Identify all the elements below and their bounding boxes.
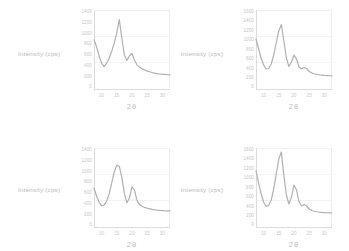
x-axis-title: 2θ — [256, 102, 332, 111]
y-tick: 1600 — [243, 10, 254, 15]
plot-area: 1400 1200 1000 800 600 400 200 0 10 15 2… — [94, 10, 170, 90]
y-tick: 400 — [246, 67, 254, 72]
x-axis-title: 2θ — [256, 240, 332, 249]
y-axis-ticks: 1400 1200 1000 800 600 400 200 0 — [72, 10, 94, 90]
x-tick: 10 — [261, 93, 266, 98]
x-tick: 10 — [99, 231, 104, 236]
y-tick: 800 — [84, 180, 92, 185]
x-tick: 25 — [307, 93, 312, 98]
y-tick: 600 — [84, 191, 92, 196]
y-axis-title: Intensity (cps) — [181, 50, 223, 57]
y-tick: 1200 — [81, 159, 92, 164]
y-tick: 800 — [246, 48, 254, 53]
x-tick: 15 — [114, 93, 119, 98]
xrd-curve — [94, 10, 170, 90]
y-tick: 400 — [246, 205, 254, 210]
xrd-curve — [256, 10, 332, 90]
y-axis-ticks: 1400 1200 1000 800 600 400 200 0 — [72, 148, 94, 228]
y-tick: 1200 — [81, 21, 92, 26]
x-tick: 20 — [291, 93, 296, 98]
y-tick: 1200 — [243, 29, 254, 34]
y-tick: 200 — [246, 214, 254, 219]
y-tick: 1400 — [243, 19, 254, 24]
x-tick: 15 — [276, 93, 281, 98]
x-tick: 10 — [261, 231, 266, 236]
y-tick: 0 — [89, 223, 92, 228]
x-tick: 25 — [145, 93, 150, 98]
chart-panel-top-right: Intensity (cps) 1600 1400 1200 1000 800 … — [175, 0, 349, 126]
x-tick: 30 — [160, 231, 165, 236]
y-tick: 200 — [84, 75, 92, 80]
x-tick: 20 — [129, 93, 134, 98]
x-axis-ticks: 10 15 20 25 30 — [94, 228, 170, 236]
x-axis-title: 2θ — [94, 102, 170, 111]
y-tick: 800 — [246, 186, 254, 191]
x-axis-ticks: 10 15 20 25 30 — [256, 228, 332, 236]
y-tick: 1000 — [243, 176, 254, 181]
y-axis-title: Intensity (cps) — [18, 186, 60, 193]
y-tick: 200 — [246, 76, 254, 81]
y-tick: 1400 — [81, 148, 92, 153]
x-tick: 15 — [114, 231, 119, 236]
x-tick: 30 — [322, 231, 327, 236]
y-tick: 800 — [84, 42, 92, 47]
xrd-curve — [94, 148, 170, 228]
plot-area: 1600 1400 1200 1000 800 600 400 200 0 10… — [256, 10, 332, 90]
y-tick: 600 — [246, 195, 254, 200]
y-tick: 1000 — [243, 38, 254, 43]
chart-panel-bottom-left: Intensity (cps) 1400 1200 1000 800 600 4… — [0, 126, 175, 251]
x-tick: 20 — [291, 231, 296, 236]
y-tick: 400 — [84, 202, 92, 207]
x-tick: 25 — [307, 231, 312, 236]
x-axis-title: 2θ — [94, 240, 170, 249]
y-tick: 1000 — [81, 32, 92, 37]
y-axis-title: Intensity (cps) — [18, 50, 60, 57]
x-tick: 10 — [99, 93, 104, 98]
plot-area: 1400 1200 1000 800 600 400 200 0 10 15 2… — [94, 148, 170, 228]
y-tick: 1400 — [243, 157, 254, 162]
y-tick: 600 — [246, 57, 254, 62]
x-tick: 25 — [145, 231, 150, 236]
x-axis-ticks: 10 15 20 25 30 — [256, 90, 332, 98]
x-tick: 20 — [129, 231, 134, 236]
y-tick: 400 — [84, 64, 92, 69]
y-tick: 200 — [84, 213, 92, 218]
chart-grid: Intensity (cps) 1400 1200 1000 800 600 4… — [0, 0, 349, 251]
plot-area: 1600 1400 1200 1000 800 600 400 200 0 10… — [256, 148, 332, 228]
y-tick: 1200 — [243, 167, 254, 172]
y-tick: 0 — [251, 85, 254, 90]
y-axis-ticks: 1600 1400 1200 1000 800 600 400 200 0 — [234, 148, 256, 228]
y-tick: 1600 — [243, 148, 254, 153]
y-axis-ticks: 1600 1400 1200 1000 800 600 400 200 0 — [234, 10, 256, 90]
chart-panel-bottom-right: Intensity (cps) 1600 1400 1200 1000 800 … — [175, 126, 349, 251]
y-tick: 1000 — [81, 170, 92, 175]
y-axis-title: Intensity (cps) — [181, 186, 223, 193]
y-tick: 0 — [89, 85, 92, 90]
chart-panel-top-left: Intensity (cps) 1400 1200 1000 800 600 4… — [0, 0, 175, 126]
x-tick: 30 — [322, 93, 327, 98]
x-tick: 15 — [276, 231, 281, 236]
xrd-curve — [256, 148, 332, 228]
y-tick: 1400 — [81, 10, 92, 15]
y-tick: 0 — [251, 223, 254, 228]
x-tick: 30 — [160, 93, 165, 98]
y-tick: 600 — [84, 53, 92, 58]
x-axis-ticks: 10 15 20 25 30 — [94, 90, 170, 98]
